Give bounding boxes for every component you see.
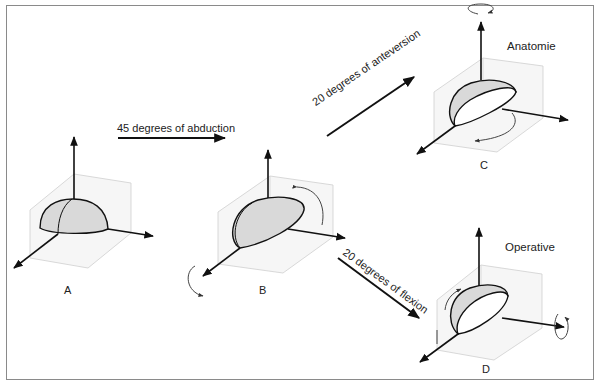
panel-c-label: C bbox=[480, 159, 488, 171]
panel-a-label: A bbox=[64, 284, 71, 296]
panel-c-figure bbox=[417, 4, 568, 154]
panel-d-label: D bbox=[482, 363, 490, 375]
transition-label-abduction: 45 degrees of abduction bbox=[117, 122, 235, 134]
panel-d-title: Operative bbox=[505, 241, 555, 253]
panel-a-figure bbox=[14, 137, 153, 268]
panel-b-label: B bbox=[259, 284, 266, 296]
diagram-canvas: 45 degrees of abduction 20 degrees of an… bbox=[0, 0, 600, 388]
panel-c-title: Anatomie bbox=[507, 40, 556, 52]
diagram-graphics bbox=[0, 0, 600, 388]
panel-b-figure bbox=[188, 150, 345, 296]
